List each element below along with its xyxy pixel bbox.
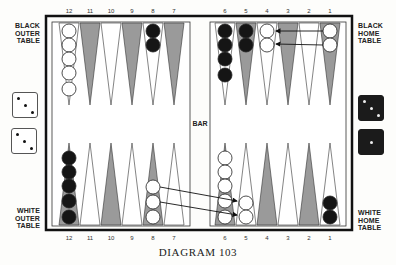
checker-black [146, 38, 160, 52]
point-number: 8 [147, 8, 159, 14]
checker-white [62, 38, 76, 52]
checker-white [146, 180, 160, 194]
point-number: 2 [303, 8, 315, 14]
point-number: 8 [147, 235, 159, 241]
pip-icon [370, 141, 373, 144]
pip-icon [31, 111, 34, 114]
checker-black [239, 38, 253, 52]
pip-icon [24, 104, 27, 107]
point-number: 10 [105, 235, 117, 241]
checker-white [323, 38, 337, 52]
bar-label: BAR [190, 120, 210, 127]
point-number: 6 [219, 235, 231, 241]
checker-black [323, 196, 337, 210]
checker-white [239, 210, 253, 224]
checker-white [62, 24, 76, 38]
checker-black [62, 210, 76, 224]
checker-white [62, 52, 76, 66]
checker-white [62, 82, 76, 96]
white-die-1 [12, 92, 38, 118]
point-number: 4 [261, 8, 273, 14]
black-die-1 [358, 95, 384, 121]
checker-black [239, 24, 253, 38]
pip-icon [16, 133, 19, 136]
checker-black [218, 38, 232, 52]
pip-icon [363, 100, 366, 103]
checker-black [218, 24, 232, 38]
point-number: 2 [303, 235, 315, 241]
pip-icon [30, 147, 33, 150]
point-number: 1 [324, 235, 336, 241]
checker-white [323, 24, 337, 38]
checker-white [62, 66, 76, 80]
point-number: 11 [84, 235, 96, 241]
point-number: 5 [240, 235, 252, 241]
checker-white [239, 196, 253, 210]
checker-white [218, 194, 232, 208]
checker-black [62, 165, 76, 179]
checker-white [146, 210, 160, 224]
point-number: 10 [105, 8, 117, 14]
checker-white [146, 195, 160, 209]
point-number: 12 [63, 8, 75, 14]
checker-black [146, 24, 160, 38]
backgammon-board [0, 0, 396, 265]
point-number: 9 [126, 235, 138, 241]
point-number: 5 [240, 8, 252, 14]
pip-icon [370, 107, 373, 110]
checker-white [218, 165, 232, 179]
diagram-caption: DIAGRAM 103 [0, 246, 396, 258]
pip-icon [23, 140, 26, 143]
checker-white [218, 179, 232, 193]
point-number: 6 [219, 8, 231, 14]
checker-white [218, 151, 232, 165]
point-number: 7 [168, 8, 180, 14]
checker-black [218, 68, 232, 82]
checker-black [323, 210, 337, 224]
checker-black [218, 52, 232, 66]
point-number: 3 [282, 8, 294, 14]
checker-black [62, 151, 76, 165]
checker-black [62, 194, 76, 208]
point-number: 1 [324, 8, 336, 14]
pip-icon [17, 97, 20, 100]
white-die-2 [11, 128, 37, 154]
point-number: 4 [261, 235, 273, 241]
point-number: 9 [126, 8, 138, 14]
checker-white [260, 24, 274, 38]
point-number: 12 [63, 235, 75, 241]
black-die-2 [358, 129, 384, 155]
checker-white [260, 38, 274, 52]
point-number: 11 [84, 8, 96, 14]
checker-black [62, 179, 76, 193]
point-number: 7 [168, 235, 180, 241]
pip-icon [377, 114, 380, 117]
point-number: 3 [282, 235, 294, 241]
